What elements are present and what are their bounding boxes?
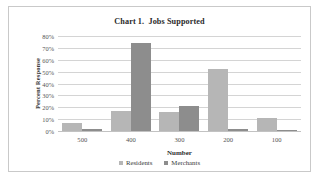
legend-entry-residents[interactable]: Residents (119, 159, 152, 166)
chart-title: Chart 1. Jobs Supported (9, 17, 310, 26)
bar-merchants-200[interactable] (228, 129, 248, 131)
bar-group: 200 (204, 36, 253, 131)
bar-residents-200[interactable] (208, 69, 228, 131)
bar-group: 400 (107, 36, 156, 131)
legend-swatch-icon (119, 161, 123, 165)
x-axis-tick-label: 500 (58, 136, 107, 143)
bar-residents-300[interactable] (159, 112, 179, 131)
bar-group: 300 (155, 36, 204, 131)
bar-residents-400[interactable] (111, 111, 131, 131)
y-axis-tick-label: 70% (42, 44, 54, 51)
y-axis-tick-label: 0% (45, 128, 54, 135)
y-axis-tick-label: 30% (42, 92, 54, 99)
x-axis-tick-label: 300 (155, 136, 204, 143)
legend-swatch-icon (164, 161, 168, 165)
x-axis-tick-label: 100 (252, 136, 301, 143)
y-axis-title-label: Percent Response (35, 58, 42, 109)
bar-group: 100 (252, 36, 301, 131)
bar-residents-500[interactable] (62, 123, 82, 131)
bar-merchants-300[interactable] (179, 106, 199, 131)
chart-container: Chart 1. Jobs Supported Percent Response… (8, 6, 311, 172)
bar-residents-100[interactable] (257, 118, 277, 131)
y-axis-tick-label: 60% (42, 56, 54, 63)
y-axis-tick-label: 20% (42, 104, 54, 111)
x-axis-tick-label: 400 (107, 136, 156, 143)
y-axis-tick-label: 50% (42, 68, 54, 75)
y-axis-tick-label: 10% (42, 116, 54, 123)
bar-merchants-100[interactable] (277, 130, 297, 131)
bar-merchants-400[interactable] (131, 43, 151, 131)
legend-label: Residents (126, 159, 152, 166)
bar-group: 500 (58, 36, 107, 131)
bar-merchants-500[interactable] (82, 129, 102, 131)
legend-label: Merchants (171, 159, 200, 166)
legend-entry-merchants[interactable]: Merchants (164, 159, 200, 166)
y-axis-tick-label: 40% (42, 80, 54, 87)
x-axis-title: Number (58, 149, 301, 157)
chart-legend: ResidentsMerchants (9, 159, 310, 166)
y-axis-tick-label: 80% (42, 33, 54, 40)
plot-area: 0%10%20%30%40%50%60%70%80%50040030020010… (58, 36, 301, 131)
gridline (58, 131, 301, 132)
x-axis-tick-label: 200 (204, 136, 253, 143)
